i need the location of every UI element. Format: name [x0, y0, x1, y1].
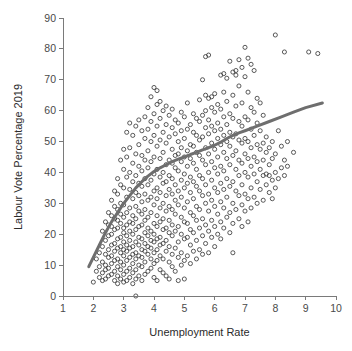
y-axis-title: Labour Vote Percentage 2019	[12, 84, 24, 230]
y-axis-tick-label: 40	[44, 166, 56, 178]
x-axis-tick-label: 4	[151, 302, 157, 314]
y-axis-tick-label: 0	[50, 290, 56, 302]
x-axis-tick-label: 9	[303, 302, 309, 314]
y-axis-tick-label: 10	[44, 259, 56, 271]
x-axis-tick-label: 7	[242, 302, 248, 314]
x-axis-tick-label: 5	[181, 302, 187, 314]
x-axis-tick-label: 3	[121, 302, 127, 314]
chart-canvas: 010203040506070809012345678910 Unemploym…	[0, 0, 352, 351]
y-axis-tick-label: 30	[44, 197, 56, 209]
x-axis-tick-label: 6	[212, 302, 218, 314]
x-axis-tick-label: 2	[90, 302, 96, 314]
x-axis-tick-label: 10	[330, 302, 342, 314]
y-axis-tick-label: 20	[44, 228, 56, 240]
x-axis-tick-label: 1	[60, 302, 66, 314]
y-axis-tick-label: 90	[44, 12, 56, 24]
x-axis-title: Unemployment Rate	[149, 326, 249, 338]
y-axis-tick-label: 50	[44, 135, 56, 147]
y-axis-tick-label: 80	[44, 42, 56, 54]
scatter-plot-figure: 010203040506070809012345678910 Unemploym…	[0, 0, 352, 351]
y-axis-tick-label: 70	[44, 73, 56, 85]
x-axis-tick-label: 8	[272, 302, 278, 314]
y-axis-tick-label: 60	[44, 104, 56, 116]
